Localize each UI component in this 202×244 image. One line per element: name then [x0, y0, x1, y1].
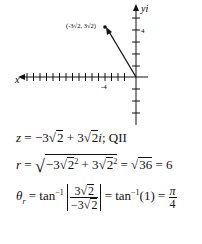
- theta-equation: θr = tan−1 3√2−3√2 = tan−1(1) = π4: [16, 184, 177, 211]
- sqrt-icon: √: [35, 156, 45, 176]
- x-axis-label: x: [14, 74, 20, 85]
- sqrt-icon: √: [84, 130, 91, 145]
- point-dot: [103, 25, 107, 29]
- x-tick-label: -4: [101, 83, 107, 91]
- complex-plane-graph: x yi -4 4 (-3√2, 3√2): [0, 0, 202, 125]
- y-tick-label: 4: [141, 27, 145, 35]
- y-axis-label: yi: [140, 3, 148, 14]
- z-equation: z = −3√2 + 3√2i; QII: [16, 130, 127, 144]
- y-axis-arrow-icon: [133, 4, 139, 11]
- vector-arrow-icon: [106, 27, 112, 35]
- vector: [108, 30, 136, 77]
- absolute-value: 3√2−3√2: [67, 184, 101, 211]
- point-label: (-3√2, 3√2): [66, 22, 96, 30]
- r-equation: r = √−3√22 + 3√22 = √36 = 6: [16, 154, 173, 175]
- sqrt-icon: √: [49, 130, 56, 145]
